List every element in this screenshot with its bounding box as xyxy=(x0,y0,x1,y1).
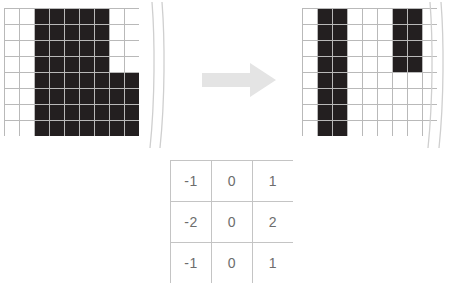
input-pixel-cell xyxy=(95,57,109,72)
output-pixel-cell xyxy=(378,41,392,56)
input-pixel-cell xyxy=(35,89,49,104)
input-pixel-cell xyxy=(95,73,109,88)
output-pixel-cell xyxy=(318,89,332,104)
figure-root: -101-202-101 xyxy=(0,0,458,283)
input-pixel-cell xyxy=(110,73,124,88)
output-pixel-cell xyxy=(408,121,422,136)
output-pixel-cell xyxy=(303,41,317,56)
input-pixel-cell xyxy=(80,57,94,72)
output-edge-grid-container xyxy=(302,8,437,136)
input-pixel-cell xyxy=(110,41,124,56)
output-pixel-cell xyxy=(408,9,422,24)
output-pixel-cell xyxy=(423,121,437,136)
kernel-cell: -1 xyxy=(171,161,211,201)
output-pixel-cell xyxy=(363,25,377,40)
kernel-cell: -2 xyxy=(171,202,211,242)
input-pixel-cell xyxy=(95,41,109,56)
output-pixel-cell xyxy=(378,121,392,136)
output-pixel-cell xyxy=(348,41,362,56)
output-pixel-cell xyxy=(303,121,317,136)
output-pixel-cell xyxy=(393,89,407,104)
transform-arrow xyxy=(200,60,278,100)
scanned-page-edge-left xyxy=(146,0,172,150)
input-pixel-cell xyxy=(110,89,124,104)
input-pixel-cell xyxy=(65,121,79,136)
output-pixel-cell xyxy=(423,57,437,72)
output-pixel-cell xyxy=(393,25,407,40)
output-pixel-cell xyxy=(393,121,407,136)
input-pixel-cell xyxy=(80,9,94,24)
kernel-cell: 0 xyxy=(212,202,252,242)
output-pixel-cell xyxy=(348,121,362,136)
input-pixel-cell xyxy=(50,9,64,24)
input-pixel-cell xyxy=(50,25,64,40)
input-pixel-cell xyxy=(80,89,94,104)
output-pixel-cell xyxy=(363,89,377,104)
output-pixel-cell xyxy=(393,41,407,56)
output-pixel-cell xyxy=(408,105,422,120)
output-pixel-cell xyxy=(378,105,392,120)
input-pixel-cell xyxy=(110,57,124,72)
input-pixel-cell xyxy=(110,9,124,24)
input-pixel-cell xyxy=(35,25,49,40)
input-pixel-cell xyxy=(50,41,64,56)
output-pixel-cell xyxy=(363,57,377,72)
input-pixel-cell xyxy=(95,9,109,24)
output-pixel-cell xyxy=(393,105,407,120)
input-pixel-cell xyxy=(5,25,19,40)
input-pixel-cell xyxy=(50,73,64,88)
input-pixel-cell xyxy=(50,105,64,120)
input-image-grid-container xyxy=(4,8,139,136)
input-pixel-cell xyxy=(125,9,139,24)
input-pixel-cell xyxy=(50,121,64,136)
output-pixel-cell xyxy=(318,73,332,88)
output-pixel-cell xyxy=(303,89,317,104)
input-pixel-cell xyxy=(125,41,139,56)
input-pixel-cell xyxy=(65,89,79,104)
output-pixel-cell xyxy=(378,9,392,24)
input-pixel-cell xyxy=(20,57,34,72)
kernel-cell: 1 xyxy=(253,243,293,283)
input-pixel-cell xyxy=(95,89,109,104)
kernel-cell: -1 xyxy=(171,243,211,283)
input-pixel-cell xyxy=(20,9,34,24)
output-pixel-cell xyxy=(423,41,437,56)
kernel-cell: 2 xyxy=(253,202,293,242)
input-pixel-cell xyxy=(5,41,19,56)
input-pixel-cell xyxy=(125,121,139,136)
input-pixel-cell xyxy=(35,41,49,56)
output-pixel-cell xyxy=(348,25,362,40)
output-pixel-cell xyxy=(333,9,347,24)
output-pixel-cell xyxy=(318,57,332,72)
input-pixel-cell xyxy=(35,105,49,120)
input-pixel-cell xyxy=(110,25,124,40)
output-pixel-cell xyxy=(393,9,407,24)
input-pixel-cell xyxy=(80,41,94,56)
output-pixel-cell xyxy=(363,121,377,136)
output-pixel-cell xyxy=(348,57,362,72)
output-pixel-cell xyxy=(333,57,347,72)
output-pixel-cell xyxy=(393,57,407,72)
output-pixel-cell xyxy=(423,9,437,24)
input-pixel-cell xyxy=(35,57,49,72)
input-pixel-cell xyxy=(65,73,79,88)
input-pixel-cell xyxy=(35,121,49,136)
output-pixel-cell xyxy=(378,57,392,72)
output-pixel-cell xyxy=(318,9,332,24)
output-pixel-cell xyxy=(363,73,377,88)
input-pixel-cell xyxy=(95,121,109,136)
output-pixel-cell xyxy=(408,57,422,72)
input-pixel-cell xyxy=(80,73,94,88)
output-pixel-cell xyxy=(303,57,317,72)
input-image-grid xyxy=(4,8,139,136)
output-pixel-cell xyxy=(318,121,332,136)
input-pixel-cell xyxy=(80,25,94,40)
output-pixel-cell xyxy=(423,25,437,40)
output-pixel-cell xyxy=(303,9,317,24)
input-pixel-cell xyxy=(5,73,19,88)
output-edge-grid xyxy=(302,8,437,136)
input-pixel-cell xyxy=(65,9,79,24)
output-pixel-cell xyxy=(303,105,317,120)
output-pixel-cell xyxy=(423,105,437,120)
input-pixel-cell xyxy=(20,105,34,120)
